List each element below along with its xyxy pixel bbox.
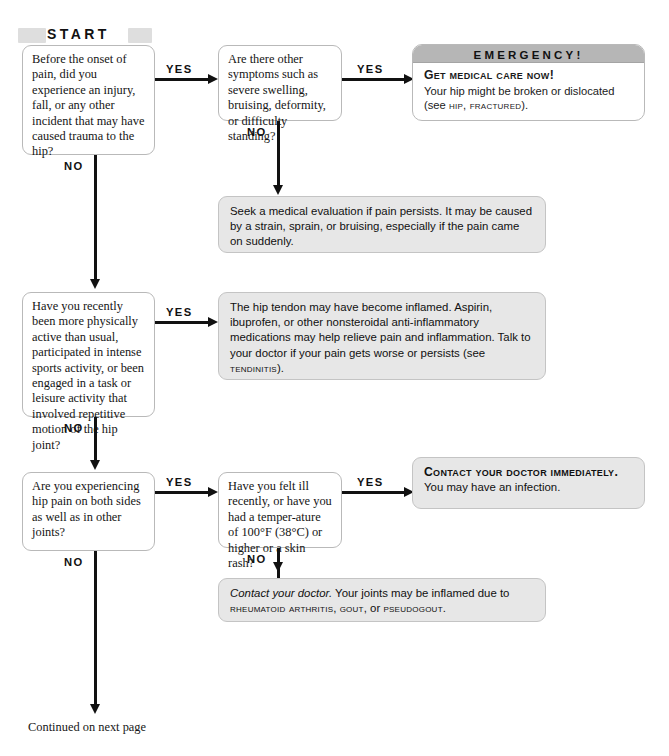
connector-q1-to-q2 <box>155 78 210 81</box>
question-box-q5[interactable]: Have you felt ill recently, or have you … <box>218 472 342 548</box>
connector-q4-to-q5 <box>155 491 210 494</box>
edge-label-yes-q1: YES <box>166 63 193 75</box>
edge-label-yes-q5: YES <box>357 476 384 488</box>
edge-label-yes-q2: YES <box>357 63 384 75</box>
connector-q1-to-q3 <box>94 155 97 281</box>
connector-q2-to-a1 <box>277 121 280 187</box>
start-band-right <box>128 28 152 43</box>
question-box-q2[interactable]: Are there other symptoms such as severe … <box>218 45 342 121</box>
question-box-q3[interactable]: Have you recently been more physically a… <box>22 292 155 417</box>
emergency-body: Get medical care now! Your hip might be … <box>413 63 644 119</box>
answer-a2-prefix: The hip tendon may have become inflamed.… <box>230 301 531 359</box>
edge-label-no-q5: NO <box>247 553 267 565</box>
answer-a4-mid: Your joints may be inflamed due to <box>332 587 509 599</box>
continued-note: Continued on next page <box>28 720 146 735</box>
answer-box-a1[interactable]: Seek a medical evaluation if pain persis… <box>218 196 546 253</box>
edge-label-yes-q3: YES <box>166 306 193 318</box>
question-box-q4[interactable]: Are you experiencing hip pain on both si… <box>22 472 155 551</box>
start-band-left <box>18 28 46 43</box>
arrowhead-q1-to-q3 <box>90 279 100 289</box>
emergency-box[interactable]: EMERGENCY! Get medical care now! Your hi… <box>412 44 645 121</box>
question-box-q1[interactable]: Before the onset of pain, did you experi… <box>22 45 155 155</box>
edge-label-no-q4: NO <box>64 556 84 568</box>
connector-q3-to-q4 <box>94 417 97 463</box>
answer-a4-end: . <box>443 602 446 614</box>
emergency-banner-label: EMERGENCY! <box>474 49 584 61</box>
answer-a4-sep-2: , or <box>364 602 384 614</box>
connector-q4-to-continued <box>94 551 97 707</box>
arrowhead-q4-to-continued <box>90 704 100 714</box>
answer-a3-rest: You may have an infection. <box>424 481 560 493</box>
start-label: START <box>47 26 110 42</box>
flowchart-canvas: START Before the onset of pain, did you … <box>0 0 669 756</box>
connector-q5-to-a3 <box>342 491 406 494</box>
answer-a2-suffix: ). <box>277 362 284 374</box>
connector-q3-to-a2 <box>155 321 210 324</box>
arrowhead-q5-to-a4 <box>273 562 283 572</box>
connector-q2-to-emergency <box>342 78 406 81</box>
edge-label-no-q2: NO <box>247 126 267 138</box>
answer-a2-ref: tendinitis <box>230 362 277 374</box>
edge-label-no-q3: NO <box>64 422 84 434</box>
arrowhead-q2-to-a1 <box>273 185 283 195</box>
answer-box-a4[interactable]: Contact your doctor. Your joints may be … <box>218 578 546 622</box>
emergency-body-suffix: ). <box>521 99 528 111</box>
answer-a4-ref-2: gout <box>340 602 364 614</box>
arrowhead-q1-to-q2 <box>208 74 218 84</box>
edge-label-no-q1: NO <box>64 160 84 172</box>
emergency-body-refs: hip, fractured <box>449 99 521 111</box>
answer-a4-ref-3: pseudogout <box>383 602 442 614</box>
answer-box-a3[interactable]: Contact your doctor immediately. You may… <box>412 457 645 509</box>
edge-label-yes-q4: YES <box>166 476 193 488</box>
emergency-banner: EMERGENCY! <box>413 45 644 63</box>
emergency-headline: Get medical care now! <box>424 68 633 83</box>
arrowhead-q4-to-q5 <box>208 487 218 497</box>
arrowhead-q3-to-q4 <box>90 460 100 470</box>
answer-a4-ref-1: rheumatoid arthritis <box>230 602 333 614</box>
answer-a4-italic: Contact your doctor. <box>230 587 332 599</box>
answer-box-a2[interactable]: The hip tendon may have become inflamed.… <box>218 292 546 380</box>
answer-a3-bold: Contact your doctor immediately. <box>424 465 618 479</box>
arrowhead-q3-to-a2 <box>208 317 218 327</box>
